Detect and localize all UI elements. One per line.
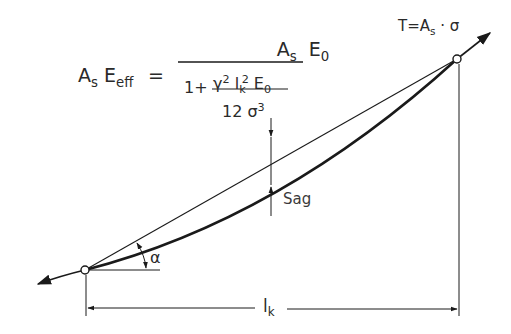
symbol-sigma: σ <box>247 102 257 121</box>
formula-lhs: As Eeff <box>78 64 133 86</box>
subscript-k: k <box>268 305 275 319</box>
symbol-A: A <box>78 64 91 86</box>
span-label: lk <box>263 296 275 316</box>
subscript-s: s <box>290 49 297 64</box>
angle-alpha-label: α <box>150 248 161 267</box>
symbol-T: T <box>398 17 407 35</box>
inner-fraction-denominator: 12 σ3 <box>222 102 265 121</box>
tension-label: T=As · σ <box>398 17 459 35</box>
symbol-sigma: σ <box>450 17 460 35</box>
inner-fraction-numerator: γ2 lk2 E0 <box>213 74 271 93</box>
equals-sign: = <box>148 64 164 86</box>
symbol-E: E <box>104 64 116 86</box>
sag-label: Sag <box>283 190 311 208</box>
symbol-A: A <box>420 17 430 35</box>
dot-operator: · <box>440 17 445 35</box>
formula-numerator: As E0 <box>223 38 383 60</box>
symbol-E: E <box>254 74 264 93</box>
subscript-s: s <box>91 75 98 90</box>
superscript-3: 3 <box>258 101 265 114</box>
subscript-s: s <box>430 25 435 37</box>
denominator-one-plus: 1+ <box>184 78 208 97</box>
subscript-0: 0 <box>264 83 271 96</box>
equals-sign: = <box>407 17 420 35</box>
symbol-E: E <box>309 38 321 60</box>
upper-node <box>453 55 461 63</box>
superscript-2: 2 <box>222 73 229 86</box>
symbol-A: A <box>277 38 290 60</box>
subscript-eff: eff <box>116 75 133 90</box>
tension-arrow-upper <box>457 33 490 59</box>
number-12: 12 <box>222 102 242 121</box>
subscript-0: 0 <box>321 49 329 64</box>
tension-arrow-lower <box>38 270 85 284</box>
superscript-2: 2 <box>242 73 249 86</box>
lower-node <box>81 266 89 274</box>
